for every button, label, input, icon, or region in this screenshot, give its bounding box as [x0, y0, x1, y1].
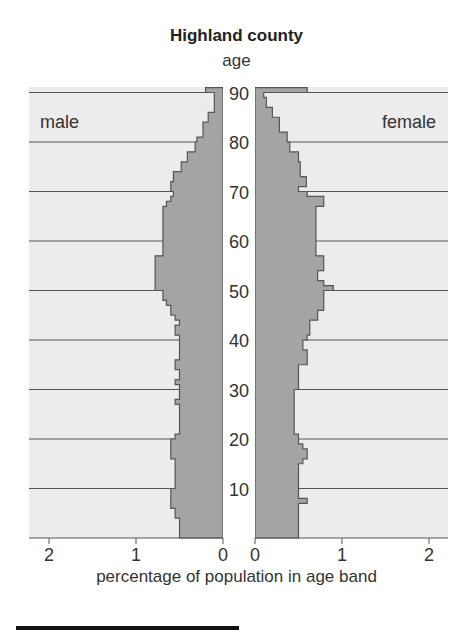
x-axis-label: percentage of population in age band: [0, 567, 473, 587]
y-tick-label: 20: [229, 430, 249, 450]
x-tick-label-male: 1: [131, 545, 141, 565]
y-tick-label: 30: [229, 381, 249, 401]
footer-rule: [16, 626, 239, 630]
x-tick-label-female: 1: [337, 545, 347, 565]
y-tick-label: 10: [229, 480, 249, 500]
female-label: female: [382, 112, 436, 132]
y-tick-label: 70: [229, 183, 249, 203]
y-tick-label: 50: [229, 282, 249, 302]
y-tick-label: 90: [229, 84, 249, 104]
y-tick-label: 60: [229, 232, 249, 252]
x-axis: 210012: [29, 538, 448, 565]
y-tick-label: 80: [229, 133, 249, 153]
x-tick-label-female: 2: [424, 545, 434, 565]
population-pyramid: 102030405060708090 210012 male female: [0, 0, 473, 632]
y-tick-label: 40: [229, 331, 249, 351]
x-tick-label-female: 0: [250, 545, 260, 565]
x-tick-label-male: 0: [218, 545, 228, 565]
x-tick-label-male: 2: [44, 545, 54, 565]
y-tick-labels: 102030405060708090: [229, 84, 249, 500]
male-label: male: [40, 112, 79, 132]
